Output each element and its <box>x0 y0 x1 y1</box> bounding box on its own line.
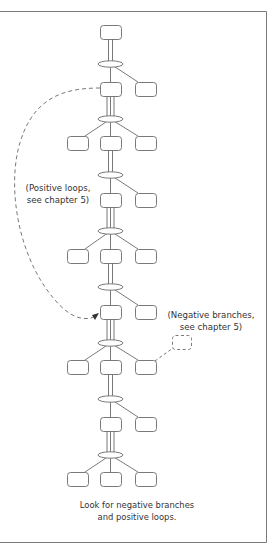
tree-node-box-center <box>101 473 122 487</box>
tree-node-box-left <box>68 250 89 264</box>
and-connector-ellipse <box>98 172 123 178</box>
tree-node-box-right <box>136 418 157 432</box>
and-connector-ellipse <box>98 284 123 290</box>
tree-node-box-right <box>136 250 157 264</box>
positive-loops-label-line1: (Positive loops, <box>26 183 91 193</box>
tree-node-box-left <box>68 361 89 375</box>
and-connector-ellipse <box>98 396 123 402</box>
tree-node-box-center <box>101 306 122 320</box>
negative-branches-label-line2: see chapter 5) <box>180 322 242 332</box>
tree-node-box-right <box>136 361 157 375</box>
and-connector-ellipse <box>98 452 123 458</box>
tree-node-box-center <box>101 250 122 264</box>
frame <box>0 12 267 543</box>
and-connector-ellipse <box>98 228 123 234</box>
tree-node-box-center <box>101 418 122 432</box>
tree-node-box-center <box>101 83 122 97</box>
tree-node-box-center <box>101 194 122 208</box>
tree-node-box-right <box>136 137 157 151</box>
and-connector-ellipse <box>98 340 123 346</box>
tree-node-box-right <box>136 194 157 208</box>
caption-line1: Look for negative branches <box>80 500 194 510</box>
negative-branches-label-line1: (Negative branches, <box>167 310 254 320</box>
tree-structure <box>68 26 157 487</box>
and-connector-ellipse <box>98 116 123 122</box>
tree-node-box-center <box>101 137 122 151</box>
tree-node-box-left <box>68 137 89 151</box>
tree-node-box-left <box>68 473 89 487</box>
arrowhead-icon <box>92 313 99 320</box>
caption-line2: and positive loops. <box>98 512 177 522</box>
and-connector-ellipse <box>98 61 123 67</box>
logic-tree-diagram: (Positive loops, see chapter 5) (Negativ… <box>0 0 276 557</box>
tree-node-box-right <box>136 306 157 320</box>
negative-branch-marker <box>155 336 192 362</box>
tree-node-box-right <box>136 83 157 97</box>
tree-node-box-right <box>136 473 157 487</box>
tree-node-box-center <box>101 26 122 40</box>
tree-node-box-center <box>101 361 122 375</box>
positive-loops-label-line2: see chapter 5) <box>27 195 89 205</box>
